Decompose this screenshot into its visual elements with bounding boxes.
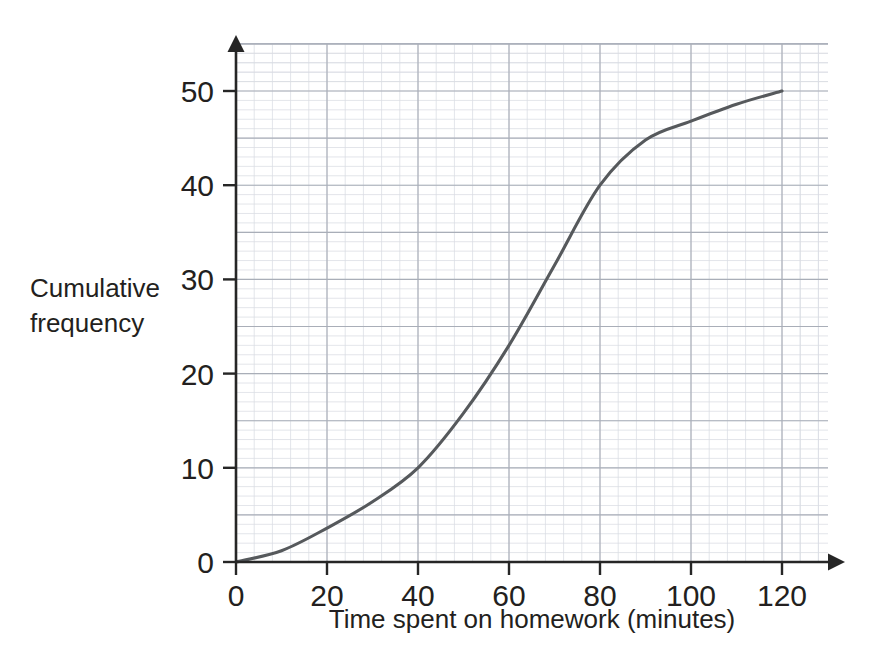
x-tick-label: 120	[757, 579, 807, 612]
y-tick-label: 10	[181, 452, 214, 485]
x-axis-arrow-icon	[828, 554, 845, 571]
y-axis-ticks	[223, 91, 236, 562]
x-axis-title: Time spent on homework (minutes)	[329, 604, 736, 634]
chart-figure: 020406080100120 01020304050 Time spent o…	[0, 0, 869, 665]
y-tick-label: 50	[181, 75, 214, 108]
y-tick-label: 40	[181, 169, 214, 202]
y-axis-title-line2: frequency	[30, 308, 144, 338]
x-axis-ticks	[236, 562, 782, 575]
y-axis-title-line1: Cumulative	[30, 273, 160, 303]
y-axis-tick-labels: 01020304050	[181, 75, 214, 579]
x-tick-label: 0	[228, 579, 245, 612]
y-tick-label: 20	[181, 358, 214, 391]
chart-svg: 020406080100120 01020304050 Time spent o…	[0, 0, 869, 665]
y-tick-label: 30	[181, 263, 214, 296]
y-tick-label: 0	[197, 546, 214, 579]
